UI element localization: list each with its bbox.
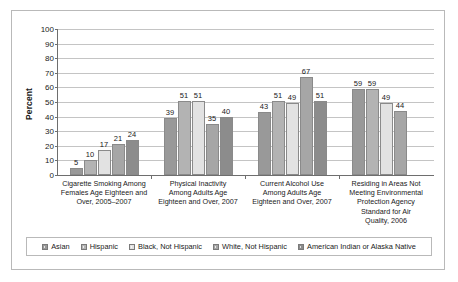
bar-slot: 43	[258, 29, 271, 175]
x-axis-label-line: Among Adults Age	[153, 188, 243, 197]
chart-plot-area: Percent 1009080706050403020100 510172124…	[12, 11, 446, 271]
bar-slot: 44	[394, 29, 407, 175]
bar-value-label: 51	[274, 91, 282, 100]
x-axis-label-line: Eighteen and Over, 2007	[247, 197, 337, 206]
y-axis-tick-label: 30	[45, 127, 54, 136]
bar-group: 510172124	[57, 29, 151, 175]
x-axis-labels: Cigarette Smoking AmongFemales Age Eight…	[57, 179, 433, 225]
bar-value-label: 17	[100, 140, 108, 149]
bar-slot: 24	[126, 29, 139, 175]
legend-swatch-icon	[129, 244, 135, 250]
bar-value-label: 39	[166, 108, 174, 117]
bar	[192, 101, 205, 175]
x-axis-category-label: Residing in Areas NotMeeting Environment…	[339, 179, 433, 225]
legend-swatch-icon	[213, 244, 219, 250]
legend-item[interactable]: Hispanic	[81, 242, 118, 251]
y-axis-tick-label: 50	[45, 98, 54, 107]
y-axis-tick-label: 80	[45, 54, 54, 63]
x-axis-label-line: Protection Agency	[341, 197, 431, 206]
x-axis-label-line: Over, 2005–2007	[59, 197, 149, 206]
bar-slot: 59	[352, 29, 365, 175]
bar-value-label: 35	[208, 114, 216, 123]
bar-group: 3951513540	[151, 29, 245, 175]
x-axis-label-line: Current Alcohol Use	[247, 179, 337, 188]
bar-value-label: 51	[316, 91, 324, 100]
bar-slot: 5	[70, 29, 83, 175]
bar-value-label: 51	[194, 91, 202, 100]
bar	[126, 140, 139, 175]
legend-label: White, Not Hispanic	[222, 242, 287, 251]
x-axis-label-line: Eighteen and Over, 2007	[153, 197, 243, 206]
legend-item[interactable]: White, Not Hispanic	[213, 242, 287, 251]
bar-value-label: 24	[128, 130, 136, 139]
bar	[178, 101, 191, 175]
bar-slot: 51	[192, 29, 205, 175]
bar-slot	[408, 29, 421, 175]
x-axis-label-line: Females Age Eighteen and	[59, 188, 149, 197]
bar-groups: 5101721243951513540435149675159594944	[57, 29, 433, 175]
legend-item[interactable]: Asian	[42, 242, 70, 251]
bar-slot: 51	[272, 29, 285, 175]
bar-value-label: 51	[180, 91, 188, 100]
x-axis-label-line: Meeting Environmental	[341, 188, 431, 197]
y-axis-tick-label: 40	[45, 112, 54, 121]
x-axis-label-line: Among Adults Age	[247, 188, 337, 197]
bar	[164, 118, 177, 175]
bar-slot: 40	[220, 29, 233, 175]
legend-label: Hispanic	[90, 242, 118, 251]
legend-item[interactable]: Black, Not Hispanic	[129, 242, 202, 251]
bar	[70, 168, 83, 175]
bar-slot: 67	[300, 29, 313, 175]
y-axis-tick-label: 20	[45, 141, 54, 150]
x-axis-label-line: Physical Inactivity	[153, 179, 243, 188]
legend-swatch-icon	[42, 244, 48, 250]
legend-item[interactable]: American Indian or Alaska Native	[298, 242, 416, 251]
bar-slot: 17	[98, 29, 111, 175]
bar-slot: 51	[178, 29, 191, 175]
bar	[112, 144, 125, 175]
bar-value-label: 67	[302, 67, 310, 76]
bar-group: 59594944	[339, 29, 433, 175]
bar	[366, 89, 379, 175]
bar-value-label: 59	[368, 79, 376, 88]
x-axis-label-line: Cigarette Smoking Among	[59, 179, 149, 188]
bar-value-label: 5	[74, 158, 78, 167]
bar-value-label: 21	[114, 134, 122, 143]
y-axis-tick-label: 0	[50, 171, 54, 180]
bar-slot: 59	[366, 29, 379, 175]
bar	[314, 101, 327, 175]
bar	[258, 112, 271, 175]
chart-legend: AsianHispanicBlack, Not HispanicWhite, N…	[26, 237, 432, 256]
bar-slot: 39	[164, 29, 177, 175]
bar-slot: 49	[286, 29, 299, 175]
bar-slot: 35	[206, 29, 219, 175]
x-axis-category-label: Current Alcohol UseAmong Adults AgeEight…	[245, 179, 339, 225]
bar	[84, 160, 97, 175]
bar	[286, 103, 299, 175]
legend-swatch-icon	[81, 244, 87, 250]
x-axis-label-line: Standard for Air	[341, 207, 431, 216]
bar	[220, 117, 233, 175]
bar	[394, 111, 407, 175]
chart-figure: Percent 1009080706050403020100 510172124…	[11, 10, 445, 270]
bar	[206, 124, 219, 175]
y-axis-tick-label: 10	[45, 156, 54, 165]
legend-label: Asian	[51, 242, 70, 251]
legend-label: Black, Not Hispanic	[138, 242, 202, 251]
bar	[300, 77, 313, 175]
y-axis-label: Percent	[24, 74, 34, 134]
y-axis-tick-label: 90	[45, 39, 54, 48]
bar-slot: 10	[84, 29, 97, 175]
bar-value-label: 43	[260, 102, 268, 111]
y-axis-tick-label: 70	[45, 68, 54, 77]
bar-slot: 21	[112, 29, 125, 175]
y-axis-tick-label: 60	[45, 83, 54, 92]
x-axis-category-label: Cigarette Smoking AmongFemales Age Eight…	[57, 179, 151, 225]
bar-value-label: 10	[86, 150, 94, 159]
bar-slot: 51	[314, 29, 327, 175]
bar	[352, 89, 365, 175]
bar	[380, 103, 393, 175]
bar-value-label: 49	[382, 93, 390, 102]
y-axis-tick-mark	[55, 175, 58, 176]
bar-group: 4351496751	[245, 29, 339, 175]
